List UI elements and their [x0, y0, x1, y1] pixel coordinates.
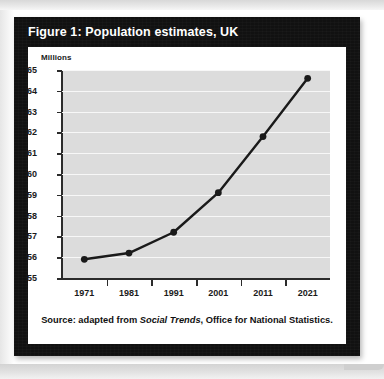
source-publication: Social Trends: [140, 315, 201, 325]
data-point-marker: [81, 256, 88, 263]
page-bottom-band: [0, 364, 384, 379]
page-top-band: [0, 0, 384, 10]
series-markers: [81, 75, 311, 263]
data-point-marker: [215, 189, 222, 196]
data-point-marker: [304, 75, 311, 82]
source-note: Source: adapted from Social Trends, Offi…: [28, 315, 346, 325]
data-point-marker: [126, 250, 133, 257]
chart-card: Millions 5556575859606162636465 19711981…: [28, 47, 346, 344]
source-prefix: Source: adapted from: [41, 315, 140, 325]
page-background: Figure 1: Population estimates, UK Milli…: [0, 0, 384, 379]
data-point-marker: [170, 229, 177, 236]
figure-title: Figure 1: Population estimates, UK: [28, 25, 238, 39]
source-suffix: , Office for National Statistics.: [201, 315, 333, 325]
figure-panel: Figure 1: Population estimates, UK Milli…: [14, 17, 360, 356]
data-point-marker: [260, 133, 267, 140]
series-line-chart: [28, 47, 346, 307]
series-polyline: [84, 78, 307, 259]
page-left-shadow: [0, 10, 14, 364]
